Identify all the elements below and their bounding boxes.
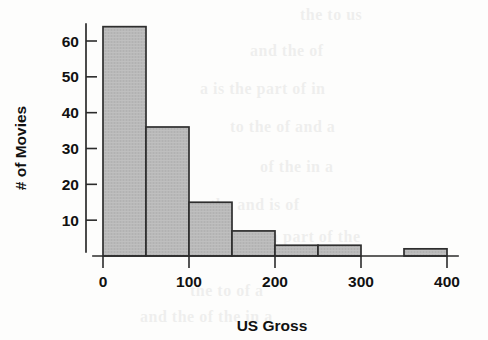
histogram-bar [318, 245, 361, 256]
histogram-bar [232, 231, 275, 256]
x-tick-label: 300 [348, 273, 374, 290]
x-tick-label: 200 [262, 273, 288, 290]
y-tick-label: 60 [62, 33, 79, 50]
histogram-bar [275, 245, 318, 256]
histogram-figure: the to us and the of a is the part of in… [0, 0, 488, 340]
bars-group [103, 27, 447, 256]
y-tick-label: 50 [62, 68, 79, 85]
x-axis-title: US Gross [237, 317, 308, 334]
histogram-bar [103, 27, 146, 256]
x-tick-label: 100 [176, 273, 202, 290]
x-tick-label: 0 [99, 273, 108, 290]
y-tick-label: 30 [62, 140, 79, 157]
histogram-bar [146, 127, 189, 256]
y-tick-group: 102030405060 [62, 33, 97, 229]
histogram-bar [404, 249, 447, 256]
y-tick-label: 40 [62, 104, 79, 121]
x-tick-label: 400 [434, 273, 460, 290]
histogram-plot: 102030405060 0100200300400 # of Movies U… [0, 0, 488, 340]
x-tick-group: 0100200300400 [99, 256, 460, 290]
y-tick-label: 10 [62, 212, 79, 229]
y-axis-title: # of Movies [12, 106, 29, 190]
y-tick-label: 20 [62, 176, 79, 193]
histogram-bar [189, 202, 232, 256]
